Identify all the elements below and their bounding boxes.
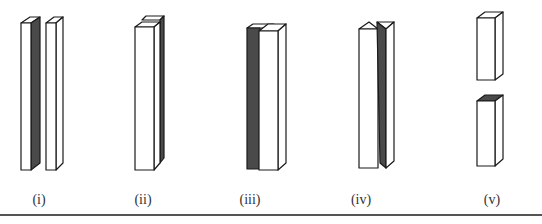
panel-ii-slabs [135, 16, 164, 170]
panel-iii-slabs [247, 24, 286, 170]
panel-v-blocks [477, 12, 503, 166]
panel-label-ii: (ii) [134, 192, 151, 208]
figure-canvas [0, 0, 542, 224]
panel-label-v: (v) [484, 192, 500, 208]
panel-i-slabs [21, 17, 63, 170]
panel-label-iv: (iv) [351, 192, 371, 208]
bottom-rule [0, 214, 542, 216]
panel-label-iii: (iii) [240, 192, 261, 208]
panel-label-i: (i) [32, 192, 45, 208]
panel-iv-slabs [359, 22, 394, 168]
